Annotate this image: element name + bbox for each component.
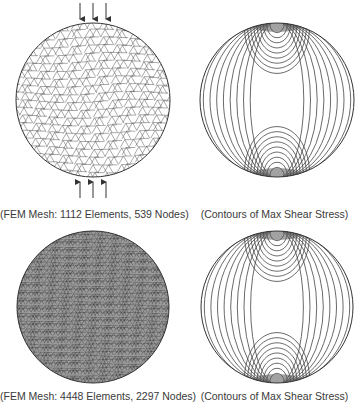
fem-mesh-fine bbox=[9, 226, 178, 391]
load-arrows-bottom bbox=[80, 182, 106, 198]
caption-contours-fine: (Contours of Max Shear Stress) bbox=[186, 390, 363, 402]
contour-plot-coarse bbox=[200, 20, 354, 180]
caption-contours-coarse: (Contours of Max Shear Stress) bbox=[186, 208, 363, 220]
caption-mesh-fine: (FEM Mesh: 4448 Elements, 2297 Nodes) bbox=[0, 390, 186, 402]
caption-mesh-coarse: (FEM Mesh: 1112 Elements, 539 Nodes) bbox=[0, 208, 186, 220]
contour-plot-fine bbox=[201, 228, 353, 386]
load-arrows-top bbox=[80, 3, 106, 19]
fem-mesh-coarse bbox=[0, 13, 189, 188]
